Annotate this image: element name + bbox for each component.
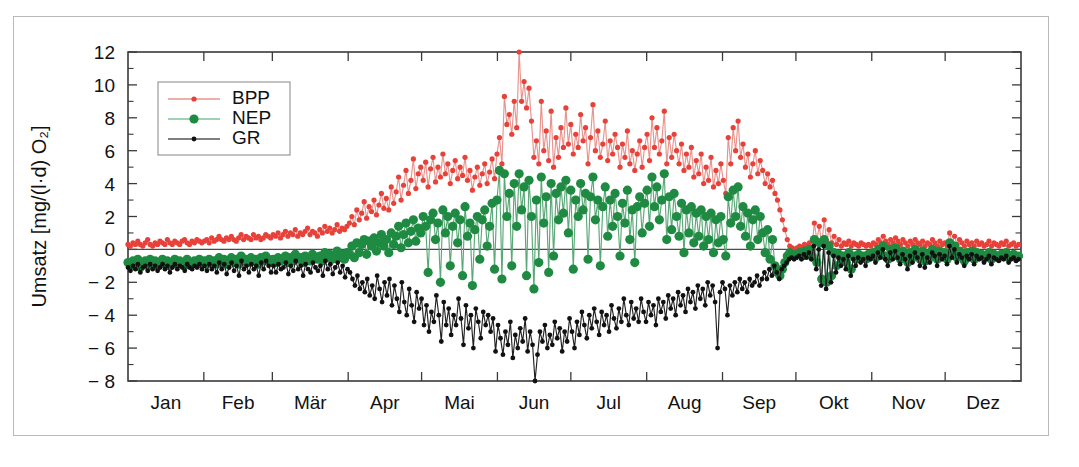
data-point (895, 255, 900, 260)
data-point (557, 326, 562, 331)
data-point (755, 273, 760, 278)
data-point (470, 225, 479, 234)
data-point (330, 272, 335, 277)
data-point (502, 212, 511, 221)
data-point (438, 174, 443, 179)
data-point (244, 263, 249, 268)
data-point (799, 257, 804, 262)
data-point (421, 178, 426, 183)
data-point (741, 232, 750, 241)
data-point (831, 234, 836, 239)
data-point (485, 222, 494, 231)
data-point (350, 277, 355, 282)
data-point (684, 228, 693, 237)
data-point (630, 258, 639, 267)
data-point (439, 339, 444, 344)
y-axis-title: Umsatz [mg/(l·d) O₂] (28, 125, 50, 307)
data-point (531, 155, 536, 160)
data-point (290, 232, 295, 237)
data-point (436, 313, 441, 318)
data-point (426, 184, 431, 189)
data-point (689, 145, 694, 150)
data-point (694, 232, 703, 241)
data-point (514, 125, 519, 130)
data-point (418, 165, 423, 170)
data-point (637, 138, 642, 143)
data-point (360, 280, 365, 285)
data-point (411, 237, 420, 246)
data-point (913, 250, 918, 255)
data-point (530, 342, 535, 347)
data-point (389, 184, 394, 189)
data-point (834, 270, 839, 275)
data-point (826, 250, 831, 255)
data-point (772, 191, 777, 196)
data-point (409, 303, 414, 308)
data-point (455, 176, 460, 181)
data-point (394, 296, 399, 301)
data-point (639, 296, 644, 301)
data-point (601, 182, 610, 191)
data-point (424, 303, 429, 308)
data-point (462, 155, 467, 160)
x-tick-label: Feb (222, 392, 255, 413)
data-point (357, 217, 362, 222)
data-point (488, 329, 493, 334)
data-point (517, 49, 522, 54)
data-point (880, 247, 885, 252)
data-point (562, 329, 567, 334)
data-point (651, 303, 656, 308)
data-point (600, 142, 605, 147)
data-point (856, 255, 861, 260)
data-point (301, 273, 306, 278)
data-point (424, 268, 433, 277)
data-point (444, 323, 449, 328)
data-point (485, 181, 490, 186)
data-point (293, 259, 298, 264)
data-point (775, 197, 780, 202)
data-point (822, 217, 827, 222)
data-point (390, 303, 395, 308)
data-point (878, 255, 883, 260)
data-point (517, 205, 526, 214)
data-point (507, 112, 512, 117)
data-point (510, 356, 515, 361)
data-point (539, 218, 548, 227)
data-point (610, 151, 615, 156)
data-point (659, 138, 664, 143)
data-point (427, 329, 432, 334)
data-point (704, 235, 713, 244)
data-point (423, 160, 428, 165)
data-point (559, 209, 568, 218)
data-point (645, 222, 654, 231)
y-tick-label: 0 (104, 239, 115, 260)
data-point (674, 148, 679, 153)
data-point (529, 284, 538, 293)
data-point (271, 263, 276, 268)
data-point (440, 151, 445, 156)
data-point (254, 263, 259, 268)
data-point (384, 196, 389, 201)
data-point (641, 310, 646, 315)
data-point (615, 251, 624, 260)
data-point (853, 263, 858, 268)
data-point (910, 260, 915, 265)
data-point (468, 281, 477, 290)
data-point (620, 218, 629, 227)
data-point (579, 205, 588, 214)
data-point (719, 235, 728, 244)
data-point (212, 263, 217, 268)
data-point (431, 319, 436, 324)
data-point (631, 316, 636, 321)
data-point (367, 293, 372, 298)
x-tick-label: Aug (668, 392, 702, 413)
data-point (515, 169, 524, 178)
data-point (487, 169, 492, 174)
data-point (222, 262, 227, 267)
data-point (804, 255, 809, 260)
x-tick-label: Jan (151, 392, 182, 413)
data-point (612, 132, 617, 137)
data-point (757, 283, 762, 288)
data-point (311, 260, 316, 265)
data-point (745, 290, 750, 295)
